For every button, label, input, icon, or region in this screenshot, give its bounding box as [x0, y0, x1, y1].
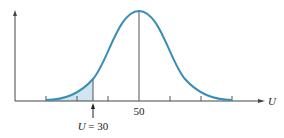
- u30-annotation: U = 30: [78, 120, 109, 132]
- mean-tick-label: 50: [134, 105, 146, 117]
- shaded-tail-region: [46, 79, 93, 101]
- x-axis-arrow-icon: [258, 99, 265, 103]
- y-axis-arrow-icon: [13, 10, 17, 16]
- x-axis-label: U: [268, 95, 277, 107]
- up-arrow-icon: [91, 103, 95, 109]
- normal-curve-chart: 50 U U = 30: [0, 0, 284, 138]
